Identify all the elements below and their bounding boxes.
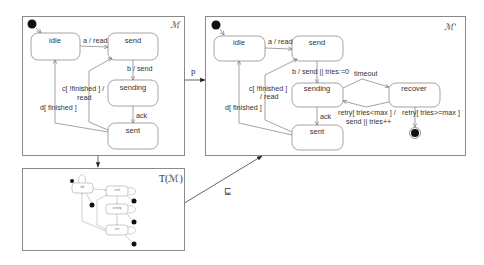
svg-text:sent: sent bbox=[115, 227, 120, 231]
machine-m-prime: ℳ' idle send sending sent recover bbox=[206, 17, 466, 156]
state-sent: sent bbox=[292, 125, 343, 150]
final-state-icon bbox=[132, 220, 137, 225]
svg-text:sending: sending bbox=[112, 206, 122, 210]
state-send: send bbox=[292, 36, 343, 61]
transition-label: / read bbox=[260, 92, 278, 101]
transition-label: a / read bbox=[268, 37, 292, 46]
initial-state-icon bbox=[28, 20, 37, 29]
state-label: sending bbox=[304, 84, 331, 93]
initial-state-icon bbox=[70, 179, 74, 183]
final-state bbox=[410, 128, 421, 139]
transition-label: b / send || tries:=0 bbox=[292, 67, 349, 76]
state-label: recover bbox=[401, 84, 427, 93]
state-label: sent bbox=[310, 127, 325, 136]
machine-m: ℳ idle send sending sent a / read b / se… bbox=[23, 17, 185, 156]
relation-label-refinement: ⊑ bbox=[224, 186, 232, 196]
transition-label: b / send bbox=[127, 64, 153, 73]
state-label: idle bbox=[233, 38, 245, 47]
state-label: send bbox=[125, 36, 141, 45]
state-idle: idle bbox=[31, 33, 80, 60]
svg-text:send: send bbox=[114, 188, 120, 192]
transition-label: a / read bbox=[83, 36, 107, 45]
svg-text:idle: idle bbox=[80, 185, 85, 189]
state-send: send bbox=[108, 33, 158, 60]
transition-label: ack bbox=[136, 111, 148, 120]
transition-label: retry[ tries>=max ] bbox=[402, 108, 460, 117]
machine-m-prime-title: ℳ' bbox=[444, 22, 457, 32]
machine-t-title: T(ℳ) bbox=[159, 173, 183, 185]
state-label: sent bbox=[126, 126, 141, 135]
state-idle: idle bbox=[214, 36, 265, 61]
state-recover: recover bbox=[389, 83, 440, 107]
final-state-icon bbox=[411, 129, 419, 137]
transition-label: d[ finished ] bbox=[225, 103, 262, 112]
transition-label: c[ !finished ] / bbox=[62, 84, 104, 93]
state-label: send bbox=[309, 38, 325, 47]
state-label: idle bbox=[49, 36, 61, 45]
final-state-icon bbox=[132, 199, 137, 204]
transition-label: ack bbox=[320, 112, 332, 121]
state-label: sending bbox=[120, 83, 147, 92]
initial-state-icon bbox=[212, 21, 221, 30]
transition-label: send || tries++ bbox=[346, 117, 391, 126]
diagram-canvas: ℳ idle send sending sent a / read b / se… bbox=[0, 0, 484, 265]
transition-label: timeout bbox=[354, 69, 378, 78]
machine-m-title: ℳ bbox=[170, 20, 181, 30]
transition-label: read bbox=[77, 93, 91, 102]
state-sent: sent bbox=[108, 123, 158, 149]
state-sending: sending bbox=[292, 83, 343, 107]
transition-label: retry[ tries<max ] / bbox=[338, 108, 396, 117]
state-sending: sending bbox=[108, 80, 158, 106]
machine-t: T(ℳ) idle send sending sent bbox=[23, 169, 185, 251]
final-state-icon bbox=[132, 242, 137, 247]
relation-label-p: p bbox=[191, 66, 196, 76]
transition-label: d[ finished ] bbox=[40, 103, 77, 112]
final-state-icon bbox=[90, 203, 95, 208]
